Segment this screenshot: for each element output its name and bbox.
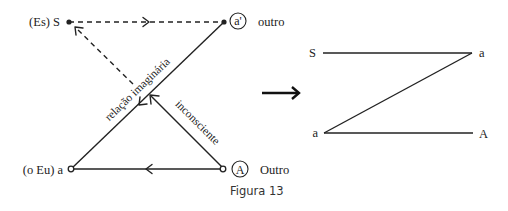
label-outro-lower: outro bbox=[258, 15, 284, 29]
label-outro-upper: Outro bbox=[260, 163, 289, 177]
node-dot-a-big bbox=[220, 166, 226, 172]
label-o-eu-a: (o Eu) a bbox=[23, 163, 64, 177]
z-label-a-big: A bbox=[479, 127, 488, 141]
z-figure: S a a A bbox=[309, 46, 488, 141]
z-label-s: S bbox=[309, 46, 316, 60]
z-diagonal-line bbox=[324, 53, 472, 133]
node-dot-a-prime bbox=[221, 19, 226, 24]
node-dot-a bbox=[68, 166, 74, 172]
label-relacao-imaginaria: relação imaginária bbox=[102, 55, 172, 124]
node-dot-s bbox=[66, 19, 71, 24]
dashed-edge-to-s bbox=[76, 28, 133, 84]
label-es-s: (Es) S bbox=[29, 15, 60, 29]
z-label-a-bottom: a bbox=[312, 126, 318, 140]
label-inconsciente: inconsciente bbox=[173, 98, 222, 147]
arrow-down-left-icon bbox=[139, 97, 147, 105]
schema-l: a' A (Es) S outro (o Eu) a Outro relação… bbox=[23, 13, 289, 177]
figure-caption: Figura 13 bbox=[230, 184, 284, 198]
schema-l-diagram: a' A (Es) S outro (o Eu) a Outro relação… bbox=[0, 0, 508, 211]
symbol-a-big: A bbox=[236, 163, 245, 177]
transition-arrow bbox=[262, 87, 299, 99]
symbol-a-prime: a' bbox=[234, 14, 242, 28]
z-label-a-top: a bbox=[479, 46, 485, 60]
